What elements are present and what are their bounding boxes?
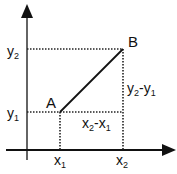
x1-label: x1 xyxy=(54,152,66,170)
dx-label: x2-x1 xyxy=(82,115,111,133)
dy-label: y2-y1 xyxy=(127,80,156,98)
coordinate-diagram: A B y2 y1 x1 x2 x2-x1 y2-y1 xyxy=(0,0,177,174)
y1-label: y1 xyxy=(7,105,19,123)
point-b-label: B xyxy=(128,33,138,50)
y-axis-arrow-icon xyxy=(21,4,33,18)
x-axis-arrow-icon xyxy=(162,144,176,156)
x2-label: x2 xyxy=(116,152,128,170)
segment-ab xyxy=(60,49,123,112)
y2-label: y2 xyxy=(7,43,19,61)
point-a-label: A xyxy=(46,94,56,111)
